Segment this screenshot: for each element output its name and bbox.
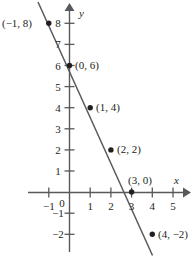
y-tick-label-4: 4	[55, 102, 61, 113]
x-axis-label: x	[174, 175, 179, 186]
y-tick-label-7: 7	[55, 39, 61, 50]
x-tick-label-5: 5	[170, 201, 176, 212]
point-label-1-4: (1, 4)	[96, 102, 120, 113]
x-axis-arrowhead	[183, 188, 191, 198]
y-tick-label-6: 6	[55, 60, 61, 71]
y-tick-label-2: 2	[55, 144, 61, 155]
x-tick-label-4: 4	[150, 201, 156, 212]
point-label-2-2: (2, 2)	[117, 144, 141, 155]
point-label-0-6: (0, 6)	[75, 60, 99, 71]
y-tick-label-1: 1	[55, 166, 61, 177]
graph-canvas	[0, 0, 195, 262]
point-label--1-8: (−1, 8)	[2, 18, 32, 29]
point-label-4--2: (4, −2)	[158, 229, 188, 240]
y-tick-label--2: −2	[52, 229, 64, 240]
data-point-1-4	[88, 105, 93, 110]
y-axis-arrowhead	[65, 3, 75, 11]
x-tick-label-3: 3	[129, 201, 135, 212]
y-tick-label-8: 8	[55, 18, 61, 29]
coordinate-plane-figure: y x −1 0 1 2 3 4 5 8 7 6 5 4 3 2 1 −1 −2…	[0, 0, 195, 262]
y-tick-label-3: 3	[55, 123, 61, 134]
y-tick-label-5: 5	[55, 81, 61, 92]
point-label-3-0: (3, 0)	[128, 175, 152, 186]
data-point-3-0	[129, 189, 134, 194]
y-axis-label: y	[79, 8, 84, 19]
data-point-0-6	[67, 63, 72, 68]
data-point-4--2	[150, 232, 155, 237]
x-tick-label-2: 2	[108, 201, 114, 212]
x-tick-label-1: 1	[87, 201, 93, 212]
data-point-2-2	[108, 147, 113, 152]
y-tick-label--1: −1	[52, 208, 64, 219]
data-point--1-8	[46, 21, 51, 26]
